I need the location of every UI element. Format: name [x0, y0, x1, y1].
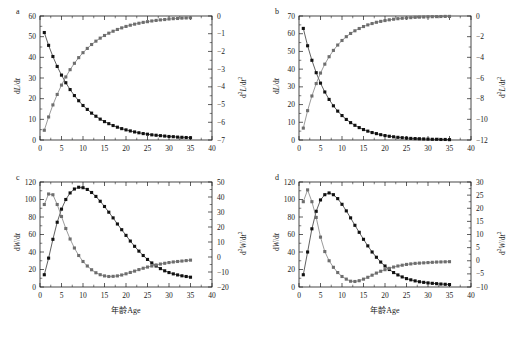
panel-d-series-1-point	[371, 250, 374, 253]
panel-d-series-1-point	[405, 277, 408, 280]
panel-a-series-1-point	[120, 127, 123, 130]
panel-a-series-1-point	[90, 112, 93, 115]
panel-b-series-1-point	[371, 131, 374, 134]
panel-c-series-2-point	[43, 203, 46, 206]
panel-a-series-1-point	[189, 136, 192, 139]
panel-c-series-2-point	[189, 259, 192, 262]
panel-c-series-2-point	[176, 260, 179, 263]
panel-c-series-2-point	[47, 192, 50, 195]
panel-b-series-2-point	[332, 49, 335, 52]
panel-a-series-1-point	[142, 132, 145, 135]
panel-a-ytick-10: 10	[29, 115, 37, 124]
panel-b-series-2-point	[444, 15, 447, 18]
panel-d-series-2-point	[340, 275, 343, 278]
panel-a-series-2-point	[180, 17, 183, 20]
panel-b-series-2-point	[319, 71, 322, 74]
panel-b-series-2-point	[409, 16, 412, 19]
panel-d-series-1-point	[409, 278, 412, 281]
panel-d-series-1-point	[448, 283, 451, 286]
panel-b-series-2-point	[340, 39, 343, 42]
panel-b-plot: 0510152025303540010203040506070−12−10−8−…	[259, 2, 518, 172]
panel-d-series-1-point	[366, 244, 369, 247]
panel-d-series-2-point	[414, 262, 417, 265]
panel-b-xtick-30: 30	[424, 144, 432, 153]
panel-a-series-2-point	[112, 30, 115, 33]
panel-d-y2label: d2W/dt2	[497, 231, 506, 254]
panel-c-y2tick-0: 0	[217, 253, 221, 262]
panel-b-series-2-point	[336, 43, 339, 46]
panel-c-xtick-10: 10	[79, 291, 87, 300]
panel-b-series-2-point	[435, 15, 438, 18]
panel-b-series-1-point	[323, 90, 326, 93]
panel-c-series-2-point	[73, 246, 76, 249]
panel-a-series-2-point	[133, 23, 136, 26]
panel-a-series-1-point	[146, 133, 149, 136]
panel-a-series-2-point	[116, 28, 119, 31]
panel-c-series-1-point	[112, 216, 115, 219]
panel-a-series-1-point	[47, 44, 50, 47]
panel-a-series-1-point	[137, 131, 140, 134]
panel-b-series-1-point	[435, 138, 438, 141]
panel-a-series-1-point	[180, 136, 183, 139]
panel-d-y2tick-30: 30	[476, 178, 484, 187]
panel-d: d0510152025303540020406080100120−10−5051…	[259, 168, 518, 339]
panel-b-series-2-point	[405, 16, 408, 19]
panel-b-y2tick--4: −4	[476, 53, 484, 62]
panel-a-xtick-30: 30	[165, 144, 173, 153]
panel-b-series-2-point	[315, 82, 318, 85]
panel-a-series-2-point	[56, 93, 59, 96]
panel-a-series-1-point	[124, 128, 127, 131]
panel-d-series-2-point	[418, 262, 421, 265]
panel-c-series-1-point	[43, 273, 46, 276]
panel-a-series-2-point	[64, 75, 67, 78]
panel-b-series-2-point	[426, 15, 429, 18]
panel-d-series-1-point	[306, 250, 309, 253]
panel-b-ylabel: dL/dt	[273, 78, 281, 94]
panel-b-series-1-point	[353, 124, 356, 127]
panel-c-series-2-point	[56, 203, 59, 206]
panel-b-ytick-70: 70	[288, 12, 296, 21]
panel-c-series-2-point	[64, 227, 67, 230]
panel-a-ytick-0: 0	[32, 136, 36, 145]
panel-d-series-2-point	[345, 278, 348, 281]
panel-a-series-2-point	[81, 51, 84, 54]
panel-c-series-2-point	[77, 254, 80, 257]
panel-c-xtick-5: 5	[60, 291, 64, 300]
panel-a-series-2-point	[94, 40, 97, 43]
panel-c-series-1-point	[185, 275, 188, 278]
panel-a-series-2-point	[129, 24, 132, 27]
panel-a-series-1-point	[64, 81, 67, 84]
panel-a-series-1-point	[116, 126, 119, 129]
panel-b-series-2-point	[345, 35, 348, 38]
panel-c-series-1-point	[129, 240, 132, 243]
panel-c-series-1-point	[142, 254, 145, 257]
panel-d-series-1-point	[396, 273, 399, 276]
panel-d-xtick-40: 40	[467, 291, 475, 300]
panel-b-series-1-point	[431, 138, 434, 141]
panel-b-series-2-point	[358, 27, 361, 30]
panel-letter-a: a	[16, 8, 20, 16]
panel-a-series-2-point	[167, 17, 170, 20]
panel-a-xtick-0: 0	[38, 144, 42, 153]
panel-b-series-1-point	[444, 138, 447, 141]
panel-a-series-2-point	[90, 43, 93, 46]
panel-b-series-1-point	[345, 118, 348, 121]
panel-d-y2tick-5: 5	[476, 243, 480, 252]
panel-c-series-2-point	[137, 268, 140, 271]
panel-b-series-1-point	[422, 137, 425, 140]
panel-a-ytick-30: 30	[29, 74, 37, 83]
panel-c-xtick-40: 40	[208, 291, 216, 300]
panel-c-series-1-point	[133, 245, 136, 248]
panel-a-series-1-point	[69, 88, 72, 91]
panel-b-series-1-point	[366, 130, 369, 133]
panel-b-series-2-point	[362, 25, 365, 28]
panel-b-series-2-point	[349, 32, 352, 35]
panel-c-series-2-point	[163, 262, 166, 265]
panel-c: c0510152025303540020406080100120−20−1001…	[0, 168, 259, 339]
panel-d-series-1-point	[302, 273, 305, 276]
panel-d-series-2-point	[371, 274, 374, 277]
panel-b-y2label: d2L/dt2	[497, 77, 506, 98]
panel-b-series-2-point	[366, 23, 369, 26]
panel-b-series-1-point	[332, 104, 335, 107]
panel-d-series-1-point	[319, 198, 322, 201]
